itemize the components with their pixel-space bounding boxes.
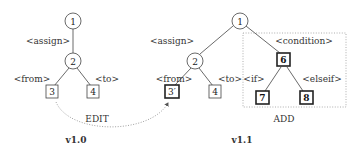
- edge-elseif: [287, 67, 303, 91]
- tree-v1-1: 1 2 3′ 4 6 7 8 <assign> <from> <to> <con…: [150, 13, 346, 145]
- node-2-label: 2: [192, 57, 198, 67]
- edge-if: [265, 67, 281, 91]
- node-4-label: 4: [212, 87, 218, 97]
- node-3-label: 3: [49, 87, 55, 97]
- edge-label-condition: <condition>: [275, 36, 333, 46]
- edge-to: [77, 68, 91, 86]
- edit-arrow: [56, 102, 168, 127]
- node-3-prime-label: 3′: [168, 87, 176, 97]
- version-label-v1-0: v1.0: [65, 135, 87, 145]
- node-2-label: 2: [70, 57, 76, 67]
- operation-label-edit: EDIT: [85, 114, 108, 124]
- node-7-label: 7: [259, 93, 265, 103]
- tree-v1-0: 1 2 3 4 <assign> <from> <to> EDIT v1.0: [14, 13, 119, 145]
- edge-label-assign: <assign>: [150, 36, 194, 46]
- node-1-label: 1: [237, 17, 243, 27]
- edge-label-from: <from>: [14, 74, 51, 84]
- tree-diff-diagram: 1 2 3 4 <assign> <from> <to> EDIT v1.0 1…: [0, 0, 362, 155]
- operation-label-add: ADD: [273, 114, 295, 124]
- edge-label-elseif: <elseif>: [302, 74, 341, 84]
- node-1-label: 1: [70, 17, 76, 27]
- node-8-label: 8: [303, 93, 309, 103]
- node-4-label: 4: [90, 87, 96, 97]
- edge-to: [199, 68, 213, 86]
- edge-assign: [200, 26, 233, 54]
- edge-label-to: <to>: [218, 74, 242, 84]
- edge-label-from: <from>: [156, 74, 193, 84]
- edge-label-to: <to>: [95, 74, 119, 84]
- node-6-label: 6: [280, 55, 286, 65]
- edge-label-if: <if>: [243, 74, 264, 84]
- edge-label-assign: <assign>: [26, 36, 70, 46]
- edge-from: [54, 68, 69, 86]
- version-label-v1-1: v1.1: [231, 135, 253, 145]
